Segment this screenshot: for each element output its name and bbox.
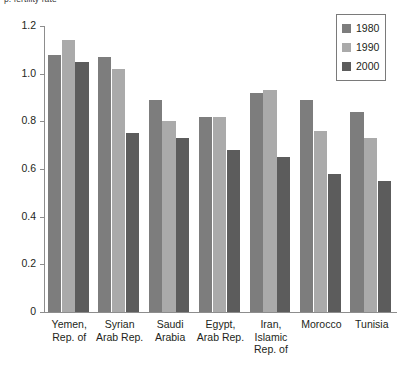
legend-label: 1990 [356,42,379,53]
x-axis-label-line: Rep. of [240,343,302,356]
bar [350,112,363,312]
bar [378,181,391,312]
x-axis-label-line: Tunisia [341,318,403,331]
y-axis-tick [40,217,44,218]
bar [227,150,240,312]
legend-item: 2000 [342,57,379,76]
legend-item: 1990 [342,38,379,57]
y-axis-tick-label: 0.6 [4,163,36,174]
bar [263,90,276,312]
bar [62,40,75,312]
x-axis-label: Tunisia [341,318,403,331]
y-axis-tick [40,312,44,313]
y-axis-tick-label: 0.4 [4,211,36,222]
y-axis-tick [40,169,44,170]
bar-chart: p. fertility rate 1.21.00.80.60.40.20 Ye… [0,0,409,372]
bar [126,133,139,312]
bar [364,138,377,312]
bar [328,174,341,312]
y-axis-tick [40,121,44,122]
legend-swatch-icon [342,62,351,71]
chart-title: p. fertility rate [4,0,57,4]
bar [314,131,327,312]
y-axis-tick-label: 1.2 [4,20,36,31]
legend-swatch-icon [342,43,351,52]
bar [75,62,88,312]
legend-label: 1980 [356,23,379,34]
y-axis-line [44,26,45,313]
y-axis-tick [40,74,44,75]
legend-swatch-icon [342,24,351,33]
bar [300,100,313,312]
bar [176,138,189,312]
y-axis-tick [40,26,44,27]
bar [199,117,212,312]
x-axis-label-line: Islamic [240,331,302,344]
y-axis-tick-label: 0.2 [4,258,36,269]
legend-label: 2000 [356,61,379,72]
bar [213,117,226,312]
bar [98,57,111,312]
bar [112,69,125,312]
bar [277,157,290,312]
y-axis-tick [40,264,44,265]
y-axis-tick-label: 0 [4,306,36,317]
bar [48,55,61,312]
y-axis-tick-label: 1.0 [4,68,36,79]
chart-legend: 198019902000 [336,14,386,81]
y-axis-tick-label: 0.8 [4,115,36,126]
x-axis-line [44,312,397,313]
bar [250,93,263,312]
bar [162,121,175,312]
bar [149,100,162,312]
legend-item: 1980 [342,19,379,38]
